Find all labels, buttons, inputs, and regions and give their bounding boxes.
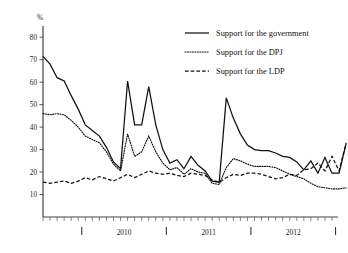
- x-tick-label: 2011: [201, 228, 216, 237]
- legend-label-0: Support for the government: [216, 29, 309, 38]
- series-line-1: [43, 114, 346, 189]
- x-axis-tick-labels: 201020112012: [117, 228, 301, 237]
- y-tick-label: 20: [30, 169, 38, 177]
- chart-container: % 1020304050607080 201020112012 Support …: [0, 0, 348, 253]
- y-tick-label: 10: [30, 191, 38, 199]
- series-line-0: [43, 56, 346, 182]
- y-tick-label: 30: [30, 146, 38, 154]
- y-axis-unit-label: %: [37, 13, 43, 22]
- y-axis-unit-text: %: [37, 13, 43, 22]
- line-chart: % 1020304050607080 201020112012 Support …: [0, 0, 348, 253]
- y-tick-label: 50: [30, 101, 38, 109]
- chart-legend: Support for the governmentSupport for th…: [185, 29, 309, 76]
- legend-label-2: Support for the LDP: [216, 67, 285, 76]
- x-tick-label: 2012: [286, 228, 301, 237]
- x-axis-minor-ticks: [43, 217, 332, 221]
- x-tick-label: 2010: [117, 228, 132, 237]
- y-axis-ticks: 1020304050607080: [30, 34, 43, 199]
- y-tick-label: 70: [30, 56, 38, 64]
- legend-label-1: Support for the DPJ: [216, 48, 284, 57]
- y-tick-label: 60: [30, 79, 38, 87]
- y-tick-label: 40: [30, 124, 38, 132]
- data-series-group: [43, 56, 346, 189]
- y-tick-label: 80: [30, 34, 38, 42]
- series-line-2: [43, 143, 346, 183]
